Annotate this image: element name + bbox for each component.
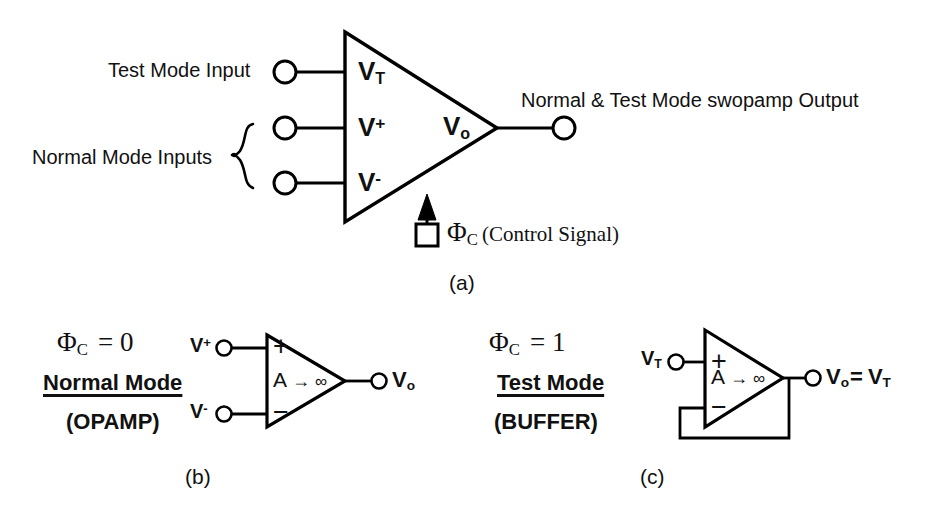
terminal-normal-plus-input: [274, 117, 296, 139]
terminal-normal-minus-input: [274, 172, 296, 194]
label-terminal-vo-a-subscript: o: [460, 124, 470, 142]
label-terminal-minus-c: −: [711, 394, 727, 421]
control-signal-arrowhead: [418, 194, 436, 220]
label-output-vo-c-value: V: [868, 364, 883, 389]
label-terminal-vt-subscript: T: [375, 69, 385, 87]
label-output-vo-b-subscript: o: [407, 378, 415, 393]
label-input-vminus-b-superscript: -: [203, 401, 207, 416]
label-control-signal-subscript: C: [467, 230, 478, 249]
label-mode-title-c: Test Mode: [497, 372, 604, 394]
label-output-vo-c-value-subscript: T: [883, 375, 891, 390]
terminal-plus-input-b: [217, 341, 232, 356]
panel-a-graphics: [232, 32, 575, 246]
label-mode-subtitle-b: (OPAMP): [66, 411, 160, 433]
label-input-vplus-b-superscript: +: [203, 335, 211, 350]
label-gain-b-symbol: A: [273, 368, 287, 391]
label-input-vminus-b: V-: [190, 401, 208, 421]
label-input-vt-c-subscript: T: [654, 357, 662, 371]
control-signal-pad: [416, 224, 438, 246]
label-condition-b-subscript: C: [77, 340, 88, 359]
terminal-output-c: [806, 371, 821, 386]
label-output-vo-c-equals: =: [850, 364, 863, 389]
label-output-vo-c: Vo=VT: [826, 366, 891, 390]
label-terminal-vminus-superscript: -: [375, 168, 381, 188]
label-terminal-plus-b: +: [273, 333, 289, 360]
normal-mode-inputs-brace: [232, 124, 253, 188]
label-terminal-vplus-base: V: [358, 112, 375, 142]
figure-swopamp-diagram: Test Mode Input Normal Mode Inputs VT V+…: [0, 0, 930, 509]
label-gain-c: A→∞: [711, 366, 765, 387]
label-condition-c-phi: Φ: [489, 327, 509, 357]
label-input-vplus-b: V+: [190, 335, 211, 355]
label-normal-mode-inputs: Normal Mode Inputs: [32, 147, 212, 167]
label-terminal-vplus-superscript: +: [375, 113, 385, 133]
label-terminal-vt-base: V: [358, 56, 375, 86]
label-input-vplus-b-base: V: [190, 334, 203, 356]
label-mode-title-b: Normal Mode: [43, 372, 182, 394]
label-gain-c-arrow: →: [730, 368, 748, 388]
label-condition-c: ΦC= 1: [489, 329, 565, 358]
label-gain-b-infinity: ∞: [315, 372, 327, 391]
label-control-signal: ΦC(Control Signal): [447, 219, 619, 248]
label-condition-c-value: = 1: [530, 327, 565, 357]
label-input-vt-c: VT: [641, 348, 662, 370]
label-mode-subtitle-c: (BUFFER): [494, 411, 598, 433]
label-gain-b-arrow: →: [292, 371, 310, 391]
label-gain-c-symbol: A: [711, 365, 725, 388]
terminal-swopamp-output: [553, 117, 575, 139]
label-output-vo-c-base: V: [826, 364, 841, 389]
label-terminal-vo-a: Vo: [443, 113, 470, 141]
caption-panel-a: (a): [449, 272, 475, 293]
label-condition-b-phi: Φ: [57, 327, 77, 357]
label-output-vo-b: Vo: [392, 369, 415, 393]
label-condition-b-value: = 0: [98, 327, 133, 357]
label-input-vt-c-base: V: [641, 347, 654, 369]
label-terminal-minus-b: −: [273, 399, 289, 426]
label-terminal-vplus: V+: [358, 114, 385, 140]
label-output-vo-c-subscript: o: [841, 375, 849, 390]
caption-panel-b: (b): [185, 466, 211, 487]
terminal-vt-input-c: [669, 355, 684, 370]
label-terminal-vminus: V-: [358, 169, 381, 195]
label-condition-b: ΦC= 0: [57, 329, 133, 358]
terminal-minus-input-b: [217, 407, 232, 422]
label-gain-c-infinity: ∞: [753, 369, 765, 388]
label-gain-b: A→∞: [273, 369, 327, 390]
label-swopamp-output: Normal & Test Mode swopamp Output: [521, 90, 859, 110]
terminal-output-b: [372, 374, 387, 389]
label-terminal-vo-a-base: V: [443, 111, 460, 141]
caption-panel-c: (c): [640, 466, 665, 487]
label-terminal-vt: VT: [358, 58, 385, 86]
label-output-vo-b-base: V: [392, 367, 407, 392]
label-condition-c-subscript: C: [509, 340, 520, 359]
label-test-mode-input: Test Mode Input: [108, 60, 250, 80]
label-terminal-vminus-base: V: [358, 167, 375, 197]
terminal-test-mode-input: [274, 61, 296, 83]
label-control-signal-note: (Control Signal): [482, 222, 619, 246]
label-input-vminus-b-base: V: [190, 400, 203, 422]
label-control-signal-phi: Φ: [447, 217, 467, 247]
